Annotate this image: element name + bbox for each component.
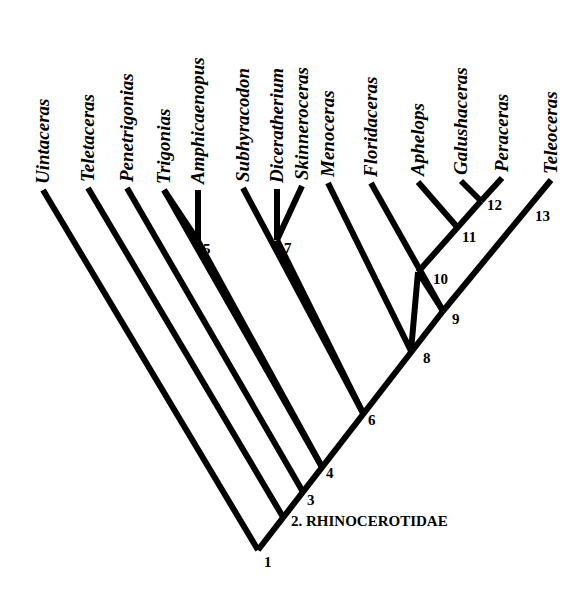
taxon-label: Uintaceras — [32, 99, 53, 185]
node-number: 6 — [368, 412, 376, 428]
taxon-label: Aphelops — [407, 103, 428, 177]
taxon-label: Teletaceras — [77, 94, 98, 182]
terminal-branch — [328, 183, 411, 351]
node-number: 1 — [264, 554, 272, 570]
node-number: 13 — [535, 208, 550, 224]
terminal-branch — [277, 186, 302, 240]
node-number: 8 — [423, 350, 431, 366]
taxon-label: Skinneroceras — [291, 67, 312, 180]
node-number: 9 — [452, 311, 460, 327]
terminal-branch — [418, 182, 458, 228]
terminal-branch — [43, 190, 258, 550]
node-number: 11 — [462, 229, 476, 245]
node-number: 5 — [203, 241, 211, 257]
terminal-branch — [164, 190, 322, 467]
taxon-label: Galushaceras — [450, 67, 471, 175]
taxon-label: Teleoceras — [540, 91, 561, 174]
taxon-label: Diceratherium — [266, 68, 287, 184]
node-number: 3 — [307, 492, 315, 508]
taxon-label: Menoceras — [317, 90, 338, 178]
terminal-branch — [461, 181, 481, 201]
node-number: 4 — [326, 465, 334, 481]
clade-label-rhinocerotidae: 2. RHINOCEROTIDAE — [291, 513, 448, 529]
node-number: 12 — [487, 197, 502, 213]
node-number: 7 — [284, 240, 292, 256]
taxon-label: Subhyracodon — [232, 68, 253, 182]
taxon-label: Peraceras — [491, 94, 512, 173]
taxon-label: Penetrigonias — [116, 73, 137, 183]
node-number: 10 — [433, 271, 448, 287]
taxon-label: Floridaceras — [360, 77, 381, 178]
cladogram: UintacerasTeletacerasPenetrigoniasTrigon… — [0, 0, 585, 589]
taxon-labels: UintacerasTeletacerasPenetrigoniasTrigon… — [32, 57, 561, 185]
taxon-label: Amphicaenopus — [187, 57, 208, 185]
internal-branch — [411, 272, 418, 351]
taxon-label: Trigonias — [153, 109, 174, 184]
